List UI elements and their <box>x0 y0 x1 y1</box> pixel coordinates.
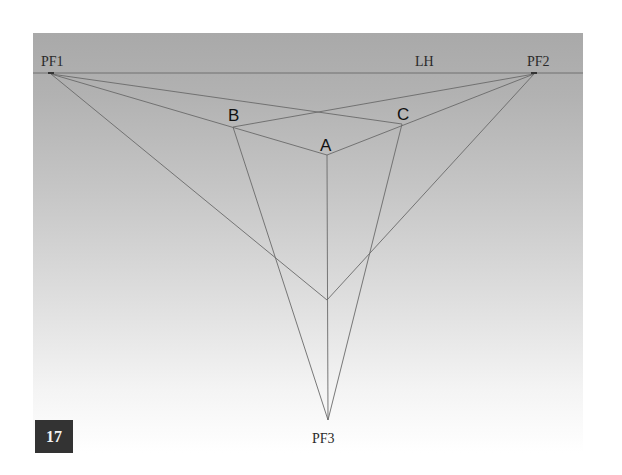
line-pf2-to-b <box>233 74 534 127</box>
line-pf1-to-bottom-vertex <box>51 74 327 300</box>
pf1-marker <box>48 72 54 74</box>
line-pf2-to-bottom-vertex <box>327 74 534 300</box>
pf2-label: PF2 <box>527 54 550 69</box>
point-b-label: B <box>228 106 239 125</box>
line-c-to-pf3 <box>328 124 402 420</box>
line-pf2-to-a <box>327 74 534 155</box>
horizon-label: LH <box>415 54 434 69</box>
pf2-marker <box>531 72 537 74</box>
point-c-label: C <box>397 105 409 124</box>
pf3-label: PF3 <box>312 431 335 446</box>
point-a-label: A <box>320 136 332 155</box>
line-a-to-pf3 <box>327 155 328 420</box>
pf1-label: PF1 <box>41 54 64 69</box>
figure-number-badge: 17 <box>35 420 73 453</box>
line-pf1-to-a <box>51 74 327 155</box>
three-point-perspective-diagram: PF1 LH PF2 PF3 B C A <box>0 0 622 475</box>
line-b-to-pf3 <box>233 127 328 420</box>
line-pf1-to-c <box>51 74 402 124</box>
